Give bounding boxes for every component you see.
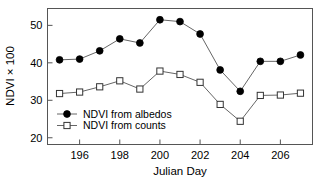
data-point-marker [77,89,83,95]
data-point-marker [157,68,163,74]
data-point-marker [56,56,63,63]
y-tick-label: 40 [30,57,42,69]
x-tick-label: 200 [151,149,169,161]
data-point-marker [96,47,103,54]
x-tick-label: 198 [111,149,129,161]
data-point-marker [277,92,283,98]
data-point-marker [197,31,204,38]
data-point-marker [157,16,164,23]
x-tick-label: 202 [191,149,209,161]
y-axis-title: NDVI × 100 [4,46,16,106]
data-point-marker [116,35,123,42]
data-point-marker [237,118,243,124]
data-point-marker [257,92,263,98]
data-point-marker [237,88,244,95]
x-tick-label: 206 [271,149,289,161]
data-point-marker [217,67,224,74]
chart-figure: 20304050 196198200202204206 NDVI from al… [0,0,330,182]
data-point-marker [137,86,143,92]
x-tick-label: 196 [70,149,88,161]
data-point-marker [97,84,103,90]
data-point-marker [76,56,83,63]
ndvi-line-chart: 20304050 196198200202204206 NDVI from al… [0,0,330,182]
x-tick-label: 204 [231,149,249,161]
legend-label: NDVI from albedos [83,108,172,120]
data-point-marker [197,79,203,85]
data-point-marker [117,78,123,84]
data-point-marker [277,58,284,65]
data-point-marker [56,90,62,96]
x-axis-title: Julian Day [153,165,207,177]
data-point-marker [177,71,183,77]
y-tick-label: 30 [30,94,42,106]
data-point-marker [217,101,223,107]
legend-label: NDVI from counts [83,119,166,131]
y-tick-label: 50 [30,19,42,31]
data-point-marker [136,40,143,47]
data-point-marker [177,18,184,25]
legend-marker [64,111,71,118]
data-point-marker [297,90,303,96]
data-point-marker [257,58,264,65]
data-point-marker [297,52,304,59]
legend-marker [64,122,70,128]
y-tick-label: 20 [30,132,42,144]
